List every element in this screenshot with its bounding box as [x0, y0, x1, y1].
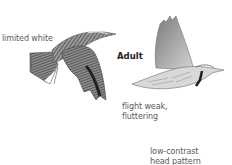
bird-underside-illustration [128, 8, 228, 93]
flight-annotation-line1: flight weak, [122, 102, 167, 112]
flight-annotation: flight weak, fluttering [122, 102, 167, 122]
head-annotation-line2: head pattern [150, 157, 201, 165]
flight-annotation-line2: fluttering [122, 112, 167, 122]
head-annotation-line1: low-contrast [150, 147, 201, 157]
head-pattern-annotation: low-contrast head pattern [150, 147, 201, 165]
tail-annotation: limited white [2, 34, 53, 44]
